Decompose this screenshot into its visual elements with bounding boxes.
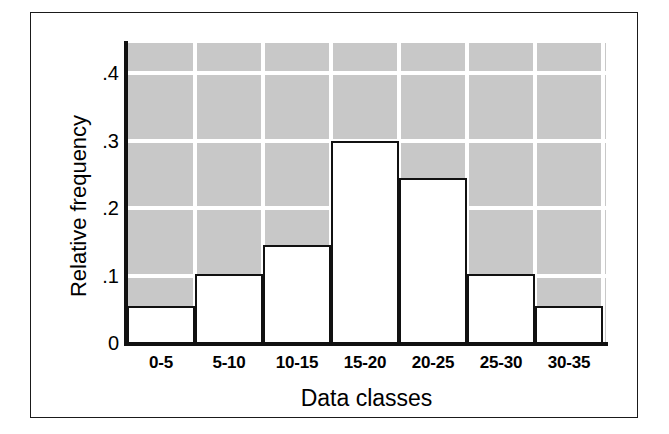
y-axis-line bbox=[124, 41, 128, 345]
x-axis-tick-label: 30-35 bbox=[529, 353, 609, 373]
histogram-bar bbox=[467, 274, 535, 343]
x-axis-title: Data classes bbox=[127, 385, 606, 412]
gridline-vertical bbox=[601, 43, 605, 343]
histogram-bar bbox=[535, 306, 603, 343]
histogram-bar bbox=[331, 141, 399, 343]
histogram-figure: 0.1.2.3.4 0-55-1010-1515-2020-2525-3030-… bbox=[0, 0, 669, 434]
histogram-bar bbox=[263, 245, 331, 343]
histogram-bar bbox=[399, 178, 467, 343]
histogram-bar bbox=[127, 306, 195, 343]
x-axis-line bbox=[124, 342, 608, 346]
y-axis-tick-label: 0 bbox=[79, 333, 119, 353]
figure-frame: 0.1.2.3.4 0-55-1010-1515-2020-2525-3030-… bbox=[30, 12, 638, 418]
plot-area bbox=[127, 43, 606, 343]
histogram-bar bbox=[195, 274, 263, 343]
y-axis-title: Relative frequency bbox=[66, 76, 92, 336]
